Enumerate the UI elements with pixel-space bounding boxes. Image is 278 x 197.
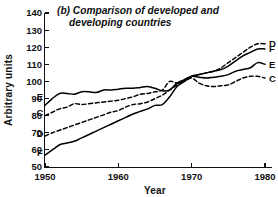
- series-line-F: [45, 49, 265, 155]
- series-label-left-C: C: [37, 107, 44, 118]
- series-label-left-F: F: [37, 147, 43, 158]
- chart-title-line2: developing countries: [69, 17, 172, 28]
- x-tick-label: 1980: [254, 171, 275, 182]
- series-line-D: [45, 44, 265, 137]
- y-tick-label: 140: [26, 7, 42, 18]
- y-tick-label: 110: [27, 59, 42, 70]
- data-series-group: [45, 44, 265, 155]
- chart-title-line1: (b) Comparison of developed and: [57, 5, 220, 16]
- x-axis-tick-labels: 1950196019701980: [34, 171, 275, 182]
- x-tick-label: 1950: [34, 171, 55, 182]
- y-axis-title: Arbitrary units: [3, 54, 14, 126]
- series-label-left-E: E: [37, 91, 43, 102]
- series-line-C: [45, 76, 265, 116]
- chart-title: (b) Comparison of developed and developi…: [57, 5, 220, 28]
- series-label-right-E: E: [269, 59, 275, 70]
- y-tick-label: 130: [26, 25, 42, 36]
- line-chart: (b) Comparison of developed and developi…: [0, 0, 278, 197]
- series-label-right-C: C: [269, 73, 276, 84]
- chart-figure: (b) Comparison of developed and developi…: [0, 0, 278, 197]
- x-tick-label: 1960: [108, 171, 129, 182]
- x-axis-title: Year: [144, 185, 166, 196]
- series-label-right-F: F: [269, 43, 275, 54]
- x-axis: 1950196019701980 Year: [34, 163, 275, 196]
- y-tick-label: 120: [26, 42, 42, 53]
- y-tick-label: 100: [26, 76, 42, 87]
- x-tick-label: 1970: [181, 171, 202, 182]
- series-label-left-D: D: [37, 128, 44, 139]
